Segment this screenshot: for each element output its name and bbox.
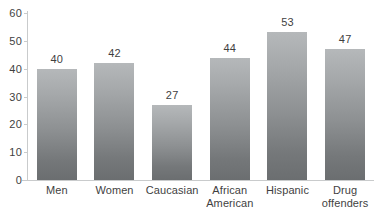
bar bbox=[325, 49, 365, 180]
x-axis-category-line: American bbox=[195, 197, 265, 210]
bar-value-label: 42 bbox=[87, 48, 143, 59]
bar-value-label: 44 bbox=[202, 43, 258, 54]
x-axis-category-line: offenders bbox=[310, 197, 376, 210]
bar-value-label: 40 bbox=[29, 54, 85, 65]
bar-chart: 0102030405060 404227445347 MenWomenCauca… bbox=[0, 0, 376, 219]
x-axis-category-line: Drug bbox=[310, 184, 376, 197]
x-axis-category-label: Drugoffenders bbox=[310, 184, 376, 210]
bar-value-label: 27 bbox=[144, 90, 200, 101]
bar-value-label: 47 bbox=[317, 34, 373, 45]
bar bbox=[210, 58, 250, 180]
bar bbox=[94, 63, 134, 180]
bar bbox=[267, 32, 307, 180]
bar bbox=[37, 69, 77, 180]
bar bbox=[152, 105, 192, 180]
bar-value-label: 53 bbox=[260, 17, 316, 28]
